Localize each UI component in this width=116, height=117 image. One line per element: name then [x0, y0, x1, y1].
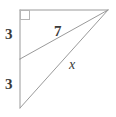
right-angle-marker-icon — [21, 11, 30, 20]
label-leg-lower: 3 — [5, 77, 13, 92]
cevian-line — [20, 10, 108, 59]
hypotenuse-line — [20, 10, 108, 108]
label-cevian-length: 7 — [54, 24, 62, 39]
label-hypotenuse-unknown: x — [69, 58, 75, 72]
label-leg-upper: 3 — [5, 27, 13, 42]
geometry-figure: 3 3 7 x — [0, 0, 116, 117]
triangle-drawing — [0, 0, 116, 117]
